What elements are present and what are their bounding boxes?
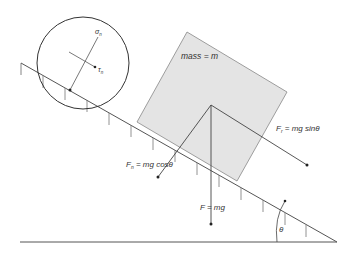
weight-force-label: F = mg — [200, 203, 226, 212]
stress-inset-circle — [37, 17, 129, 109]
friction-arrow-tip — [306, 164, 309, 167]
mass-label: mass = m — [181, 51, 218, 61]
incline-diagram: σn τn mass = m Fr = mg sinθ Fn = mg cosθ… — [0, 0, 354, 254]
normal-force-label: Fn = mg cosθ — [126, 160, 174, 170]
shear-stress-label: τn — [98, 66, 104, 75]
shear-point — [94, 66, 97, 69]
normal-arrow-tip — [157, 176, 160, 179]
normal-stress-line — [70, 37, 98, 90]
angle-label: θ — [279, 225, 284, 234]
angle-arc — [276, 201, 285, 242]
shear-line — [69, 52, 95, 67]
weight-arrow-tip — [210, 223, 213, 226]
angle-arc-tip — [284, 200, 287, 203]
friction-force-label: Fr = mg sinθ — [276, 124, 320, 134]
normal-stress-label: σn — [95, 28, 102, 37]
inset-contact-point — [69, 89, 72, 92]
